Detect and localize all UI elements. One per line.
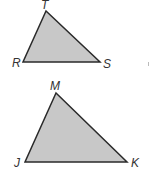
vertex-label-k: K [131, 156, 140, 170]
vertex-label-m: M [50, 79, 60, 93]
triangle-rst: T R S [12, 0, 111, 71]
vertex-label-j: J [13, 156, 21, 170]
vertex-label-s: S [103, 57, 111, 71]
triangle-mjk: M J K [13, 79, 140, 170]
stray-mark [148, 62, 149, 66]
vertex-label-r: R [12, 56, 21, 70]
triangle-diagram: T R S M J K [0, 0, 150, 171]
vertex-label-t: T [41, 0, 50, 12]
